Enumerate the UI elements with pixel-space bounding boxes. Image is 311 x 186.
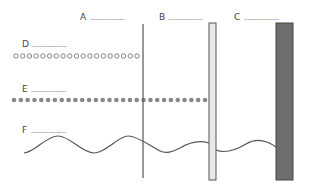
filled-dot bbox=[203, 98, 208, 103]
hollow-circle bbox=[115, 54, 119, 58]
filled-dot bbox=[175, 98, 180, 103]
hollow-circle bbox=[94, 54, 98, 58]
filled-dot bbox=[169, 98, 174, 103]
hollow-circle bbox=[68, 54, 72, 58]
filled-dot bbox=[155, 98, 160, 103]
hollow-circle bbox=[108, 54, 112, 58]
diagram: A .................... B ...............… bbox=[0, 0, 311, 186]
label-e-blank: .................... bbox=[31, 86, 66, 94]
label-a-blank: .................... bbox=[90, 14, 125, 22]
hollow-circle bbox=[54, 54, 58, 58]
label-b-blank: .................... bbox=[168, 14, 203, 22]
label-c: C bbox=[234, 12, 240, 22]
hollow-circle bbox=[128, 54, 132, 58]
filled-dot bbox=[32, 98, 37, 103]
hollow-circle bbox=[27, 54, 31, 58]
filled-dot bbox=[87, 98, 92, 103]
filled-dot bbox=[189, 98, 194, 103]
hollow-circle bbox=[88, 54, 92, 58]
filled-dot bbox=[148, 98, 153, 103]
filled-dot bbox=[12, 98, 17, 103]
filled-dot bbox=[196, 98, 201, 103]
label-b: B bbox=[159, 12, 165, 22]
filled-dot bbox=[134, 98, 139, 103]
filled-dot bbox=[46, 98, 51, 103]
filled-dot bbox=[25, 98, 30, 103]
hollow-circle bbox=[21, 54, 25, 58]
label-c-blank: .................... bbox=[244, 14, 279, 22]
label-f-blank: .................... bbox=[31, 127, 66, 135]
filled-dot bbox=[39, 98, 44, 103]
light-bar-b bbox=[209, 23, 216, 180]
hollow-circle bbox=[121, 54, 125, 58]
filled-dot bbox=[114, 98, 119, 103]
hollow-circle bbox=[41, 54, 45, 58]
hollow-circle bbox=[74, 54, 78, 58]
dark-bar-c bbox=[276, 23, 293, 180]
hollow-circle bbox=[47, 54, 51, 58]
filled-dot bbox=[107, 98, 112, 103]
hollow-circle bbox=[135, 54, 139, 58]
filled-dot bbox=[80, 98, 85, 103]
filled-dot bbox=[182, 98, 187, 103]
hollow-circle bbox=[61, 54, 65, 58]
hollow-circle-row bbox=[14, 54, 139, 58]
filled-dot bbox=[100, 98, 105, 103]
filled-dot-row bbox=[12, 98, 208, 103]
hollow-circle bbox=[81, 54, 85, 58]
filled-dot bbox=[53, 98, 58, 103]
filled-dot bbox=[19, 98, 24, 103]
filled-dot bbox=[59, 98, 64, 103]
filled-dot bbox=[121, 98, 126, 103]
label-f: F bbox=[22, 125, 27, 135]
filled-dot bbox=[141, 98, 146, 103]
hollow-circle bbox=[101, 54, 105, 58]
hollow-circle bbox=[34, 54, 38, 58]
label-d: D bbox=[22, 39, 29, 49]
filled-dot bbox=[128, 98, 133, 103]
filled-dot bbox=[162, 98, 167, 103]
hollow-circle bbox=[14, 54, 18, 58]
wave-line bbox=[24, 136, 276, 153]
filled-dot bbox=[94, 98, 99, 103]
label-d-blank: .................... bbox=[32, 41, 67, 49]
filled-dot bbox=[66, 98, 71, 103]
label-e: E bbox=[22, 84, 28, 94]
filled-dot bbox=[73, 98, 78, 103]
label-a: A bbox=[80, 12, 87, 22]
